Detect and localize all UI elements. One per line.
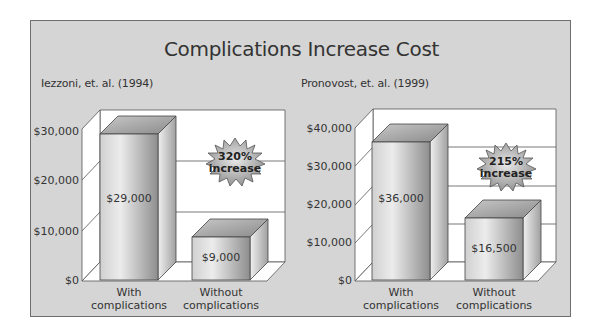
left-burst-word: increase: [209, 162, 261, 175]
left-xlabel-line2: complications: [91, 299, 167, 312]
charts-canvas: $0 $10,000 $20,000 $30,000 $29,000 $9,00…: [0, 0, 601, 332]
left-bar-without-complications: $9,000: [192, 219, 268, 280]
left-xlabel-line1: With: [117, 286, 142, 299]
right-ytick: $20,000: [307, 198, 353, 211]
right-chart: $0 $10,000 $20,000 $30,000 $40,000 $36,0…: [307, 109, 557, 312]
right-ytick: $30,000: [307, 160, 353, 173]
left-ytick: $10,000: [34, 225, 80, 238]
right-xlabel-line2: complications: [363, 299, 439, 312]
right-xlabel-line1: With: [389, 286, 414, 299]
left-ytick: $0: [65, 274, 79, 287]
right-xlabel-line1: Without: [473, 286, 517, 299]
left-ytick: $30,000: [34, 125, 80, 138]
left-ytick: $20,000: [34, 174, 80, 187]
left-bar-value: $9,000: [202, 251, 241, 264]
left-xlabel-line2: complications: [183, 299, 259, 312]
left-xlabel-line1: Without: [200, 286, 244, 299]
right-ytick: $10,000: [307, 236, 353, 249]
right-xlabel-line2: complications: [456, 299, 532, 312]
left-chart: $0 $10,000 $20,000 $30,000 $29,000 $9,00…: [34, 110, 286, 312]
right-ytick: $0: [338, 274, 352, 287]
left-bar-value: $29,000: [106, 192, 152, 205]
right-bar-value: $16,500: [471, 242, 517, 255]
right-burst-word: increase: [480, 167, 532, 180]
left-side-wall: [82, 110, 100, 281]
right-bar-value: $36,000: [378, 192, 424, 205]
left-bar-with-complications: $29,000: [100, 116, 176, 280]
right-bar-without-complications: $16,500: [465, 200, 541, 280]
right-ytick: $40,000: [307, 122, 353, 135]
right-bar-with-complications: $36,000: [372, 124, 448, 280]
